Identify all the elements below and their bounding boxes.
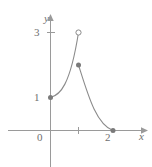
curve-right-branch — [79, 65, 114, 131]
origin-label: 0 — [37, 132, 43, 143]
point-open-1-3 — [76, 30, 81, 35]
x-tick-label-2: 2 — [105, 132, 111, 143]
point-filled-1-2 — [76, 63, 81, 68]
x-axis-label: x — [139, 131, 144, 142]
point-filled-0-1 — [48, 95, 53, 100]
point-filled-2-0 — [111, 128, 116, 133]
y-tick-label-3: 3 — [34, 27, 40, 38]
graph-canvas — [0, 0, 152, 167]
graph-figure: y x 3 1 0 2 — [0, 0, 152, 167]
y-axis-label: y — [44, 13, 49, 24]
curve-left-branch — [51, 33, 79, 98]
y-tick-label-1: 1 — [34, 92, 40, 103]
